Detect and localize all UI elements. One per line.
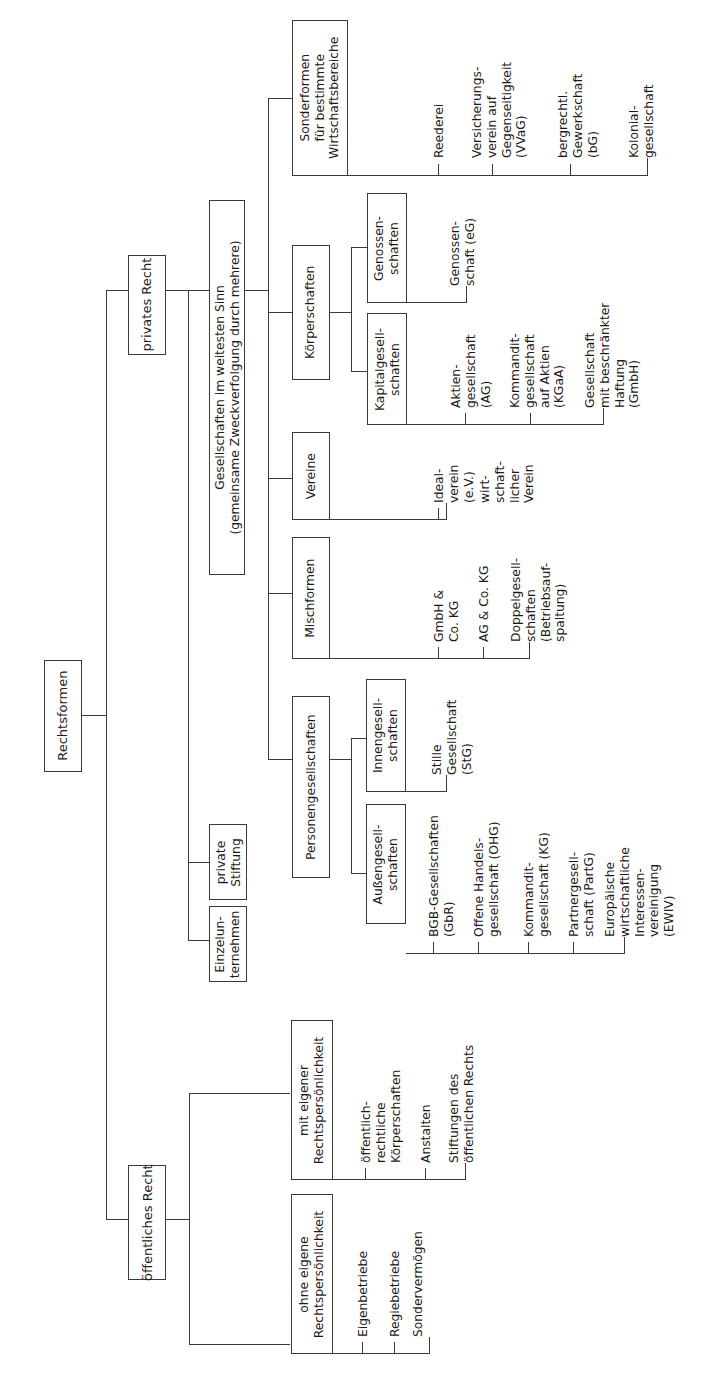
leaf-anstalten: Anstalten (419, 1104, 434, 1163)
node-oeffentliches-recht-label: öffentliches Recht (139, 1164, 154, 1281)
connector-to-kapitalgesellschaften (351, 371, 368, 372)
node-kapitalgesellschaften: Kapitalgesell- schaften (367, 313, 407, 425)
connector-pg-stem (330, 759, 352, 760)
connector-koerperschaften-spine (351, 247, 352, 372)
node-personengesellschaften: Personengesellschaften (292, 696, 330, 878)
leaf-ewiv: Europäische wirtschaftliche Interessen- … (603, 847, 677, 937)
connector-public-law-spine (189, 1093, 190, 1345)
leaf-partg: Partnergesell- schaft (PartG) (567, 852, 597, 937)
node-personengesellschaften-label: Personengesellschaften (304, 714, 319, 860)
node-rechtsformen: Rechtsformen (44, 660, 82, 772)
leaf-aktiengesellschaft: Aktien- gesellschaft (AG) (449, 334, 493, 408)
tick-mit-0 (365, 1168, 366, 1180)
node-oeffentliches-recht: öffentliches Recht (128, 1165, 166, 1280)
leaf-kolonialgesellschaft: Kolonial- gesellschaft (627, 84, 657, 158)
connector-to-ohne-rechtspersoenlichkeit (189, 1344, 290, 1345)
leaf-stiftungen-oeffentlichen-rechts: Stiftungen des öffentlichen Rechts (447, 1045, 477, 1163)
leaf-reederei: Reederei (432, 104, 447, 158)
leaf-ohg: Offene Handels- gesellschaft (OHG) (472, 821, 502, 937)
node-vereine-label: Vereine (304, 453, 319, 499)
leaf-wirtschaftlicher-verein: wirt- schaft- licher Verein (478, 461, 537, 503)
node-einzelunternehmen-label: Einzelun- ternehmen (214, 910, 243, 978)
connector-to-mit-rechtspersoenlichkeit (189, 1093, 290, 1094)
leaf-sondervermoegen: Sondervermögen (411, 1231, 426, 1337)
node-ohne-rechtspersoenlichkeit-label: ohne eigene Rechtspersönlichkeit (298, 1210, 327, 1337)
node-koerperschaften-label: Körperschaften (304, 266, 319, 359)
tick-aussen-2 (528, 942, 529, 954)
leaf-berggewerkschaft: bergrechtl. Gewerkschaft (bG) (556, 74, 600, 158)
leaf-vvag: Versicherungs- verein auf Gegenseitigkei… (470, 62, 529, 158)
leaf-gmbh: Gesellschaft mit beschränkter Haftung (G… (583, 303, 642, 408)
tick-mischformen-1 (483, 647, 484, 659)
rail-ohne-rechtspersoenlichkeit-end (429, 1337, 430, 1354)
rail-innengesellschaften-end (446, 775, 447, 792)
node-mischformen-label: Mischformen (304, 558, 319, 637)
node-privates-recht: privates Recht (128, 255, 166, 355)
rail-mischformen-end (529, 642, 530, 659)
tick-sonderformen-2 (570, 164, 571, 176)
node-private-stiftung: private Stiftung (209, 824, 247, 900)
tick-aussen-3 (573, 942, 574, 954)
rail-mit-rechtspersoenlichkeit-end (465, 1163, 466, 1180)
tick-aussen-0 (433, 942, 434, 954)
rail-vereine-end (446, 503, 447, 520)
tick-mischformen-0 (438, 647, 439, 659)
connector-gesellschaften-spine (268, 98, 269, 760)
connector-root-spine (106, 290, 107, 1220)
connector-to-aussengesellschaften (351, 873, 367, 874)
connector-to-public-law (106, 1219, 128, 1220)
node-innengesellschaften-label: Innengesell- schaften (372, 698, 401, 773)
tick-kapital-1 (530, 413, 531, 425)
connector-to-private-law (106, 290, 128, 291)
tick-ohne-0 (362, 1342, 363, 1354)
rechtsformen-diagram: Rechtsformen privates Recht Gesellschaft… (0, 0, 718, 1396)
node-rechtsformen-label: Rechtsformen (55, 671, 70, 761)
rail-aussengesellschaften-end (624, 937, 625, 954)
node-genossenschaften-label: Genossen- schaften (373, 215, 402, 280)
rail-aussengesellschaften (406, 953, 625, 954)
rail-mischformen (330, 658, 530, 659)
leaf-kg: Kommandit- gesellschaft (KG) (522, 832, 552, 937)
rail-innengesellschaften (406, 791, 447, 792)
rail-kapitalgesellschaften (407, 424, 604, 425)
tick-ohne-1 (394, 1342, 395, 1354)
connector-to-vereine (268, 478, 292, 479)
node-gesellschaften: Gesellschaften im weitesten Sinn (gemein… (209, 200, 245, 575)
rail-ohne-rechtspersoenlichkeit (333, 1353, 430, 1354)
tick-mit-1 (425, 1168, 426, 1180)
tick-vereine-0 (438, 508, 439, 520)
rail-kapitalgesellschaften-end (603, 408, 604, 425)
connector-to-gesellschaften (188, 290, 210, 291)
connector-to-mischformen (268, 593, 292, 594)
leaf-regiebetriebe: Regiebetriebe (388, 1251, 403, 1337)
leaf-kgaa: Kommandit- gesellschaft auf Aktien (KGaA… (508, 333, 567, 408)
node-mit-rechtspersoenlichkeit-label: mit eigener Rechtspersönlichkeit (298, 1036, 327, 1163)
leaf-stille-gesellschaft: Stille Gesellschaft (StG) (430, 700, 474, 775)
node-vereine: Vereine (292, 432, 330, 520)
tick-sonderformen-0 (438, 164, 439, 176)
connector-to-koerperschaften (268, 312, 292, 313)
node-genossenschaften: Genossen- schaften (367, 193, 407, 303)
connector-to-einzelunternehmen (188, 940, 210, 941)
node-gesellschaften-label: Gesellschaften im weitesten Sinn (gemein… (213, 240, 242, 534)
leaf-genossenschaft-eg: Genossen- schaft (eG) (448, 218, 478, 286)
connector-public-law-stem (166, 1219, 190, 1220)
leaf-eigenbetriebe: Eigenbetriebe (356, 1251, 371, 1337)
connector-private-law-spine (188, 290, 189, 940)
node-private-stiftung-label: private Stiftung (214, 838, 243, 886)
leaf-gbr: BGB-Gesellschaften (GbR) (427, 815, 457, 937)
connector-to-genossenschaften (351, 247, 368, 248)
tick-kapital-0 (465, 413, 466, 425)
rail-sonderformen (348, 175, 648, 176)
node-aussengesellschaften: Außengesell- schaften (366, 804, 406, 924)
tick-aussen-1 (478, 942, 479, 954)
node-privates-recht-label: privates Recht (139, 258, 154, 352)
node-ohne-rechtspersoenlichkeit: ohne eigene Rechtspersönlichkeit (291, 1194, 333, 1354)
rail-genossenschaften (407, 302, 467, 303)
rail-genossenschaften-end (466, 286, 467, 303)
connector-to-innengesellschaften (351, 738, 367, 739)
node-aussengesellschaften-label: Außengesell- schaften (372, 824, 401, 904)
connector-koerperschaften-stem (330, 312, 352, 313)
connector-root-stem (82, 715, 107, 716)
connector-private-law-stem (166, 290, 189, 291)
